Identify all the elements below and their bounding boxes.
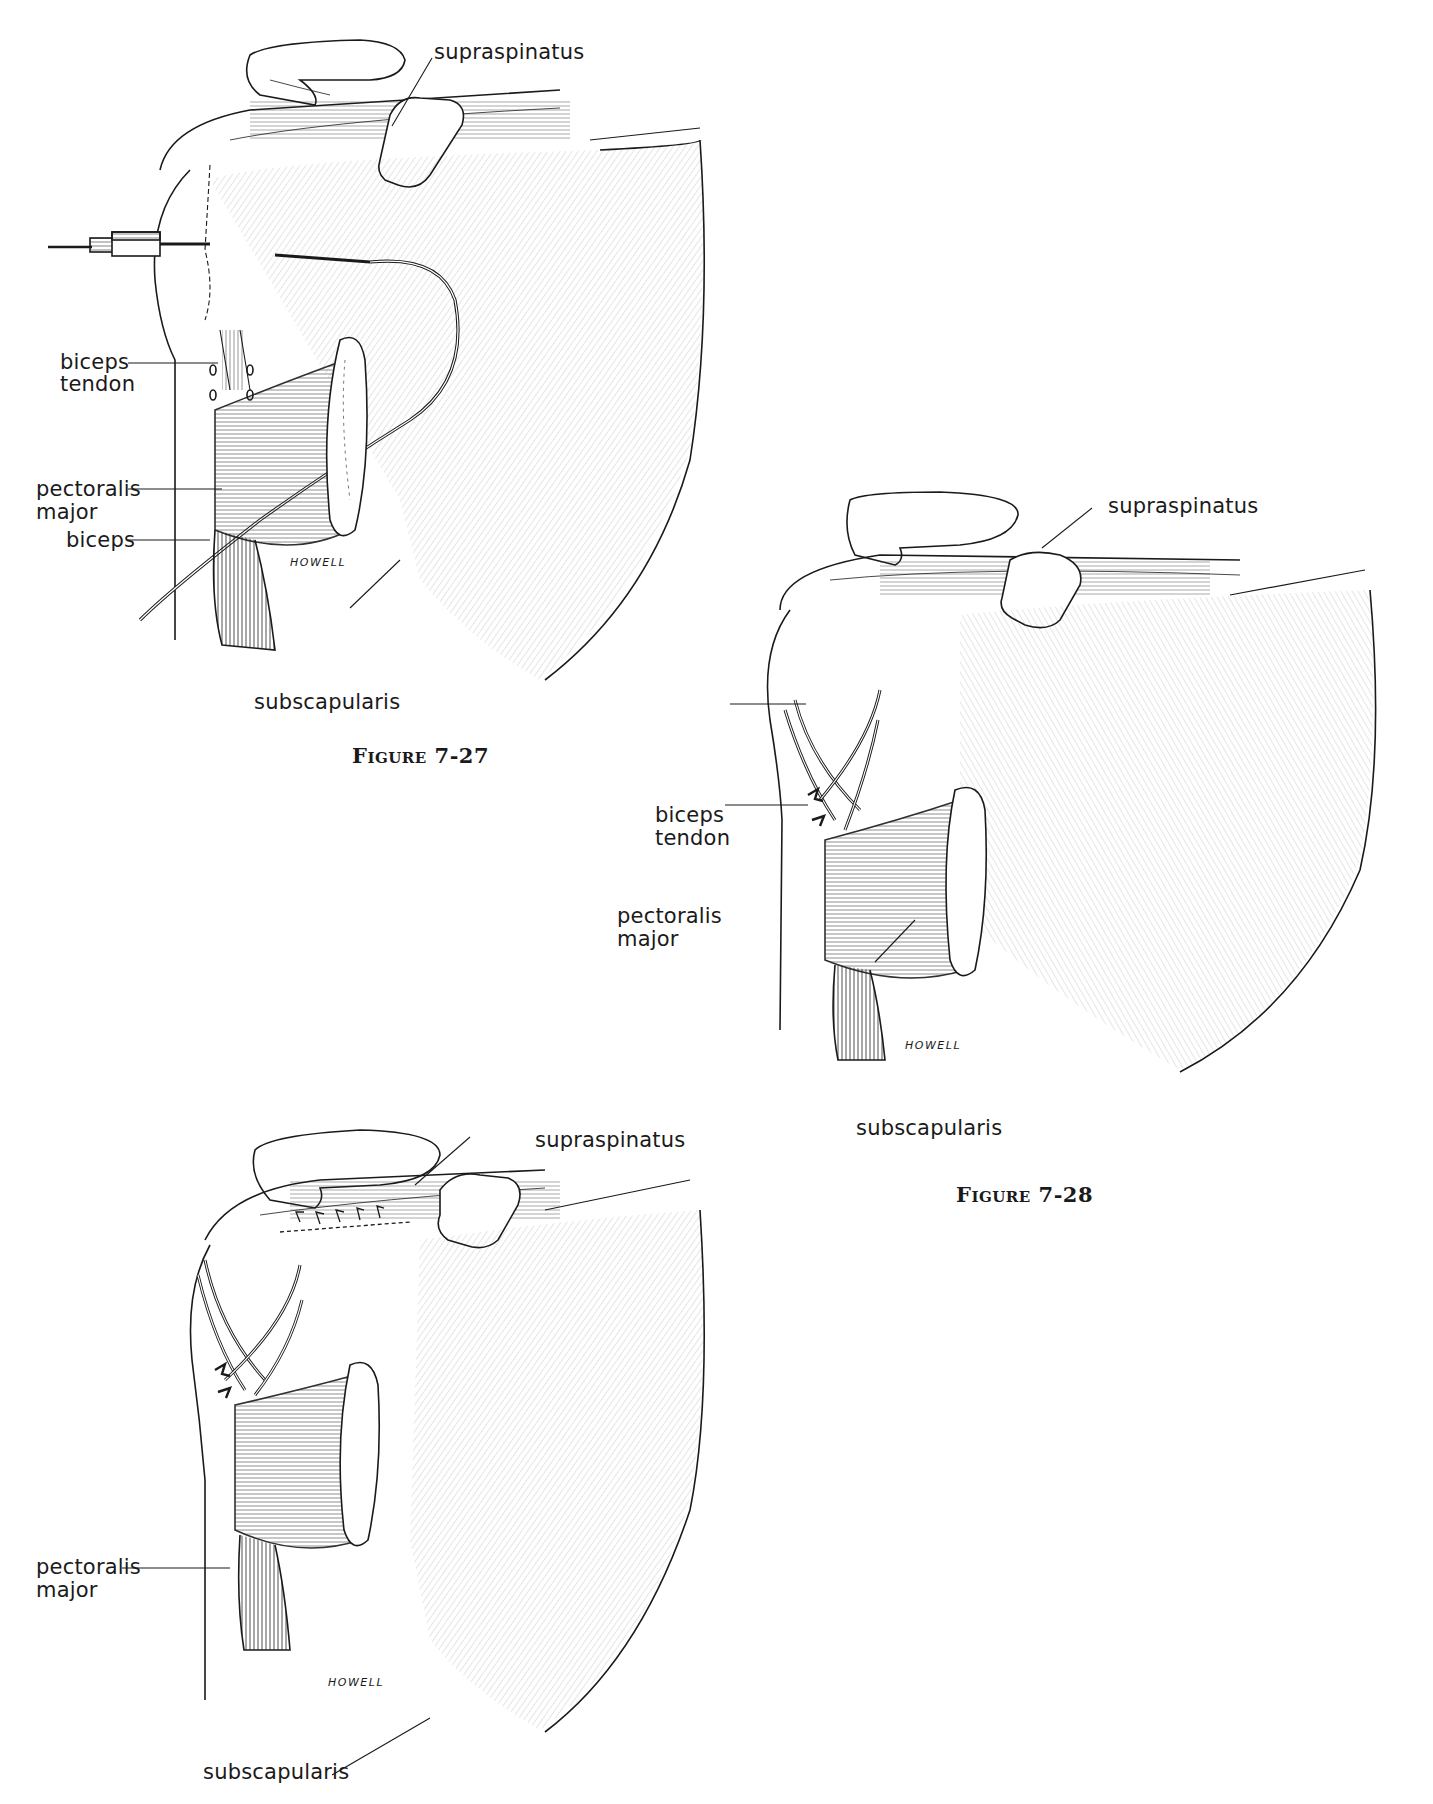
anatomical-illustrations [0, 0, 1433, 1804]
fig29-label-subscapularis: subscapularis [203, 1760, 349, 1784]
figure-7-27-drawing [48, 40, 706, 680]
fig27-label-subscapularis: subscapularis [254, 690, 400, 714]
fig27-label-biceps-tendon-line1: biceps [60, 350, 129, 374]
fig29-label-pectoralis-major-line1: pectoralis [36, 1555, 141, 1579]
fig27-caption: Figure 7-27 [352, 743, 489, 768]
fig28-caption: Figure 7-28 [956, 1182, 1093, 1207]
fig29-label-supraspinatus: supraspinatus [535, 1128, 685, 1152]
fig27-label-pectoralis-major-line1: pectoralis [36, 477, 141, 501]
fig29-artist-signature: HOWELL [328, 1676, 384, 1689]
fig28-artist-signature: HOWELL [905, 1039, 961, 1052]
fig27-label-biceps-tendon-line2: tendon [60, 372, 135, 396]
fig28-label-pectoralis-major-line1: pectoralis [617, 904, 722, 928]
fig28-label-supraspinatus: supraspinatus [1108, 494, 1258, 518]
figure-7-28-drawing [768, 492, 1376, 1072]
fig28-label-biceps-tendon-line1: biceps [655, 803, 724, 827]
fig27-label-biceps: biceps [66, 528, 135, 552]
textbook-page: supraspinatus biceps tendon pectoralis m… [0, 0, 1433, 1804]
fig27-artist-signature: HOWELL [290, 556, 346, 569]
fig27-label-supraspinatus: supraspinatus [434, 40, 584, 64]
fig29-label-pectoralis-major-line2: major [36, 1578, 98, 1602]
fig27-label-pectoralis-major-line2: major [36, 500, 98, 524]
fig28-label-pectoralis-major-line2: major [617, 927, 679, 951]
fig28-label-biceps-tendon-line2: tendon [655, 826, 730, 850]
figure-7-29-drawing [190, 1130, 704, 1732]
fig28-label-subscapularis: subscapularis [856, 1116, 1002, 1140]
